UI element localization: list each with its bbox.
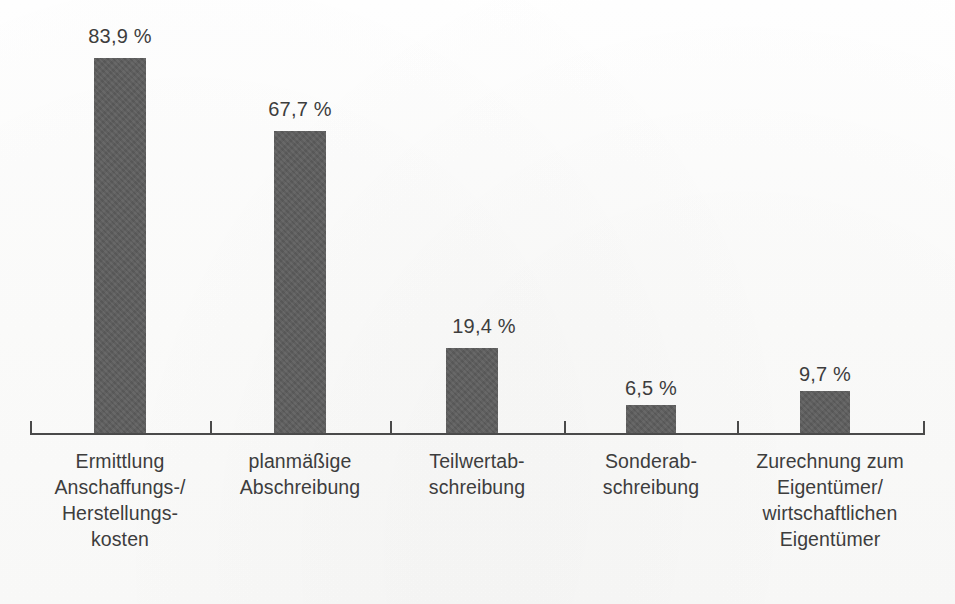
category-label-3: Teilwertab- schreibung [387, 448, 567, 500]
axis-tick-start [30, 421, 32, 434]
category-label-2: planmäßige Abschreibung [210, 448, 390, 500]
axis-tick-end [923, 421, 925, 434]
value-label-bar-1: 83,9 % [60, 25, 180, 48]
category-label-4: Sonderab- schreibung [561, 448, 741, 500]
value-label-bar-4: 6,5 % [591, 377, 711, 400]
bar-chart-figure: 83,9 % 67,7 % 19,4 % 6,5 % 9,7 % Ermittl… [0, 0, 955, 604]
value-label-bar-5: 9,7 % [765, 363, 885, 386]
value-label-bar-2: 67,7 % [240, 98, 360, 121]
plot-area: 83,9 % 67,7 % 19,4 % 6,5 % 9,7 % Ermittl… [0, 0, 955, 604]
bar-4 [626, 405, 676, 434]
bar-2 [274, 131, 326, 434]
axis-tick-2 [390, 421, 392, 434]
value-label-bar-3: 19,4 % [424, 315, 544, 338]
bar-5 [800, 391, 850, 434]
category-label-1: Ermittlung Anschaffungs-/ Herstellungs- … [30, 448, 210, 552]
bar-1 [94, 58, 146, 434]
axis-tick-1 [210, 421, 212, 434]
category-label-5: Zurechnung zum Eigentümer/ wirtschaftlic… [735, 448, 925, 552]
axis-tick-4 [737, 421, 739, 434]
x-axis-line [30, 433, 925, 435]
axis-tick-3 [564, 421, 566, 434]
bar-3 [446, 348, 498, 434]
